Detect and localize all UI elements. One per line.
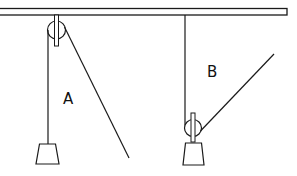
rope-a-right <box>65 27 130 158</box>
weight-b <box>183 143 204 165</box>
pulley-a-bracket <box>55 15 59 46</box>
label-b: B <box>207 63 217 81</box>
ceiling-beam <box>0 9 287 16</box>
system-a-fixed-pulley: A <box>36 15 129 164</box>
weight-a <box>36 144 59 164</box>
pulley-b-bracket <box>191 113 195 142</box>
system-b-movable-pulley: B <box>183 15 274 165</box>
pulley-diagram: A B <box>0 0 297 176</box>
label-a: A <box>63 90 74 108</box>
